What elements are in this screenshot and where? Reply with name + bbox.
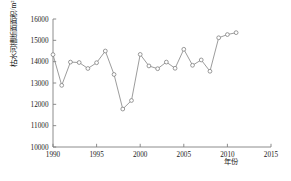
x-tick-label: 1990: [46, 151, 61, 159]
data-point: [130, 99, 134, 103]
data-point: [156, 67, 160, 71]
data-point: [191, 63, 195, 67]
y-tick-label: 16000: [31, 16, 49, 24]
data-point: [164, 60, 168, 64]
y-axis-ticks: 10000110001200013000140001500016000: [31, 16, 57, 152]
data-point: [234, 31, 238, 35]
x-tick-label: 2000: [133, 151, 148, 159]
x-tick-label: 2005: [177, 151, 192, 159]
chart-figure: 枯水河槽断面面积/m² 年份 1000011000120001300014000…: [0, 0, 291, 181]
data-point: [112, 73, 116, 77]
data-point: [226, 33, 230, 37]
data-point: [217, 36, 221, 40]
data-point: [51, 53, 55, 57]
data-point: [182, 47, 186, 51]
data-point: [173, 66, 177, 70]
data-point: [86, 67, 90, 71]
data-point: [69, 60, 73, 64]
data-point: [77, 61, 81, 65]
data-point: [121, 107, 125, 111]
x-tick-label: 1995: [89, 151, 104, 159]
y-tick-label: 12000: [31, 101, 49, 109]
y-tick-label: 11000: [31, 122, 49, 130]
data-point: [208, 69, 212, 73]
y-tick-label: 15000: [31, 37, 49, 45]
data-point: [147, 64, 151, 68]
x-axis-ticks: 199019952000200520102015: [46, 144, 279, 159]
plot-area: 10000110001200013000140001500016000 1990…: [0, 0, 291, 181]
data-point: [60, 83, 64, 87]
data-point: [95, 61, 99, 65]
x-tick-label: 2015: [264, 151, 279, 159]
y-tick-label: 14000: [31, 58, 49, 66]
data-point: [103, 49, 107, 53]
data-point: [199, 58, 203, 62]
x-tick-label: 2010: [220, 151, 235, 159]
data-point-markers: [51, 31, 238, 111]
y-tick-label: 13000: [31, 80, 49, 88]
data-point: [138, 53, 142, 57]
